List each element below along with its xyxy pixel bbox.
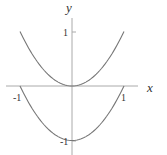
x-tick-label-neg1: -1 (13, 92, 21, 103)
x-axis-label: x (146, 80, 153, 95)
x-tick-label-1: 1 (121, 92, 126, 103)
parabola-plot: y x 1 -1 -1 1 (0, 0, 167, 155)
y-tick-label-neg1: -1 (60, 136, 68, 147)
y-axis-label: y (64, 0, 72, 15)
y-tick-label-1: 1 (63, 27, 68, 38)
